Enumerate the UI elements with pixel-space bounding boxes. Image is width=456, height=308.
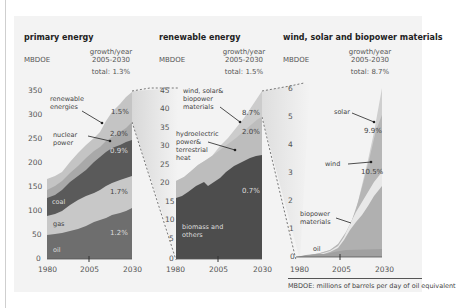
svg-text:1980: 1980: [166, 265, 185, 274]
leader-wsb: [220, 107, 240, 122]
label-biopower-1: biopower: [300, 210, 330, 218]
x-axis-renewable: 1980 2005 2030: [166, 265, 272, 274]
label-biomass-1: biomass and: [182, 223, 223, 231]
svg-text:3: 3: [288, 168, 293, 177]
label-biopower-2: materials: [300, 218, 331, 226]
svg-text:100: 100: [28, 206, 43, 215]
svg-text:1980: 1980: [38, 265, 57, 274]
label-biomass-2: others: [182, 231, 203, 239]
label-wsb-3: materials: [183, 103, 214, 111]
label-wind: wind: [325, 160, 340, 168]
svg-text:2005: 2005: [80, 265, 99, 274]
svg-text:4: 4: [288, 140, 293, 149]
label-oil-p3: oil: [313, 245, 321, 253]
svg-text:20: 20: [160, 178, 170, 187]
svg-text:1980: 1980: [290, 265, 309, 274]
pct-coal: 0.9%: [110, 147, 128, 155]
label-gas: gas: [53, 220, 65, 228]
x-axis-wsb: 1980 2005 2030: [290, 265, 394, 274]
svg-text:45: 45: [160, 86, 170, 95]
label-hydro-1: hydroelectric: [176, 130, 219, 138]
label-coal: coal: [52, 198, 66, 206]
zoom-wedge-2: [262, 84, 310, 260]
svg-text:2: 2: [288, 196, 293, 205]
svg-text:10: 10: [165, 215, 175, 224]
svg-text:250: 250: [28, 134, 43, 143]
svg-text:2030: 2030: [375, 265, 394, 274]
leader-solar: [352, 113, 374, 122]
label-wsb-1: wind, solar&: [183, 87, 223, 95]
svg-text:6: 6: [288, 84, 293, 93]
svg-text:40: 40: [160, 104, 170, 113]
label-renewable-energies-2: energies: [50, 103, 79, 111]
svg-text:350: 350: [28, 86, 43, 95]
svg-text:30: 30: [160, 141, 170, 150]
svg-text:2005: 2005: [332, 265, 351, 274]
leader-biopower: [336, 218, 351, 223]
svg-text:50: 50: [32, 230, 42, 239]
label-nuclear-1: nuclear: [53, 131, 78, 139]
label-wsb-2: biopower: [183, 95, 213, 103]
svg-text:0: 0: [169, 254, 174, 263]
svg-text:200: 200: [28, 158, 43, 167]
svg-text:1: 1: [289, 224, 294, 233]
svg-text:5: 5: [169, 234, 174, 243]
label-nuclear-2: power: [53, 139, 73, 147]
svg-text:25: 25: [160, 160, 170, 169]
label-renewable-energies-1: renewable: [50, 95, 84, 103]
pct-wind: 10.5%: [361, 168, 384, 176]
pct-hydro: 2.0%: [242, 128, 260, 136]
svg-text:35: 35: [160, 123, 170, 132]
svg-text:2030: 2030: [123, 265, 142, 274]
pct-biomass: 0.7%: [242, 187, 260, 195]
pct-solar: 9.9%: [364, 127, 382, 135]
pct-wsb: 8.7%: [242, 109, 260, 117]
footnote: MBDOE: millions of barrels per day of oi…: [288, 278, 422, 290]
y-axis-primary: 350 300 250 200 150 100 50 0: [28, 86, 43, 263]
label-hydro-3: terrestrial: [176, 146, 208, 154]
pct-renewable: 1.5%: [111, 108, 129, 116]
svg-text:150: 150: [28, 182, 43, 191]
label-hydro-4: heat: [176, 154, 191, 162]
pct-oil: 1.2%: [110, 229, 128, 237]
label-oil: oil: [53, 246, 61, 254]
svg-text:15: 15: [165, 197, 175, 206]
svg-text:2005: 2005: [209, 265, 228, 274]
svg-text:300: 300: [28, 110, 43, 119]
svg-text:5: 5: [288, 112, 293, 121]
svg-text:2030: 2030: [253, 265, 272, 274]
x-axis-primary: 1980 2005 2030: [38, 265, 142, 274]
label-solar: solar: [334, 108, 350, 116]
svg-text:0: 0: [36, 254, 41, 263]
label-hydro-2: power&: [176, 138, 201, 146]
leader-renewable: [82, 111, 102, 123]
pct-gas: 1.7%: [110, 188, 128, 196]
svg-text:0: 0: [290, 252, 295, 261]
pct-nuclear: 2.0%: [110, 130, 128, 138]
